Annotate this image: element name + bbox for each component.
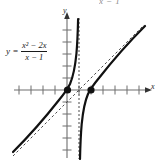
point-x-intercept-two bbox=[87, 86, 94, 93]
equation-denominator: x − 1 bbox=[24, 52, 44, 62]
curve-left-branch bbox=[13, 19, 78, 152]
equation-label: y = x² − 2x x − 1 bbox=[6, 41, 47, 61]
y-axis-label: y bbox=[63, 6, 67, 15]
cropped-header-text: x − 1 bbox=[99, 0, 120, 4]
equation-equals: = bbox=[13, 47, 18, 56]
x-axis bbox=[14, 87, 152, 93]
equation-lhs: y bbox=[6, 47, 10, 56]
plot-canvas bbox=[0, 0, 161, 160]
equation-fraction: x² − 2x x − 1 bbox=[21, 41, 47, 61]
graph-figure: x − 1 y = x² − 2x x − 1 y x bbox=[0, 0, 161, 160]
x-axis-label: x bbox=[151, 82, 155, 91]
equation-numerator: x² − 2x bbox=[21, 41, 47, 51]
point-x-intercept-origin bbox=[64, 86, 71, 93]
